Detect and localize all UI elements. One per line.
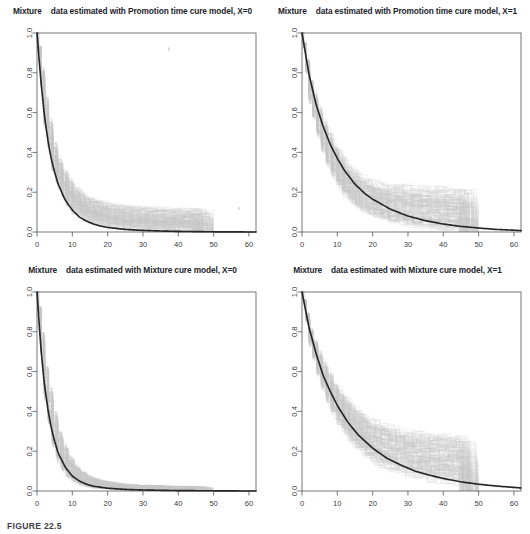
svg-text:0.6: 0.6 (290, 366, 299, 377)
figure-panel-grid: Mixturedata estimated with Promotion tim… (0, 0, 530, 518)
svg-text:10: 10 (68, 499, 76, 508)
svg-text:0.8: 0.8 (290, 68, 299, 79)
svg-text:10: 10 (68, 240, 76, 249)
svg-text:20: 20 (368, 499, 376, 508)
plot-panel-promotion-x1: Mixturedata estimated with Promotion tim… (265, 0, 530, 259)
survival-plot-mixture-x0: 01020304050600.00.20.40.60.81.0 (0, 273, 265, 518)
svg-text:0.2: 0.2 (290, 187, 299, 198)
svg-text:20: 20 (103, 240, 111, 249)
svg-text:60: 60 (510, 499, 518, 508)
svg-text:50: 50 (209, 240, 217, 249)
svg-text:40: 40 (439, 499, 447, 508)
svg-text:0.2: 0.2 (290, 446, 299, 457)
svg-text:30: 30 (139, 499, 147, 508)
svg-text:0.0: 0.0 (25, 486, 34, 497)
svg-text:0.0: 0.0 (290, 486, 299, 497)
svg-text:0: 0 (300, 499, 304, 508)
svg-text:30: 30 (404, 499, 412, 508)
svg-text:0.8: 0.8 (25, 68, 34, 79)
svg-text:0: 0 (35, 499, 39, 508)
svg-text:0.8: 0.8 (290, 327, 299, 338)
plot-panel-promotion-x0: Mixturedata estimated with Promotion tim… (0, 0, 265, 259)
figure-caption: FIGURE 22.5 (7, 521, 62, 531)
svg-text:1.0: 1.0 (290, 28, 299, 39)
survival-plot-promotion-x0: 01020304050600.00.20.40.60.81.0 (0, 14, 265, 259)
svg-text:0.4: 0.4 (25, 406, 34, 417)
svg-text:0.6: 0.6 (25, 107, 34, 118)
svg-text:0.2: 0.2 (25, 446, 34, 457)
svg-text:0: 0 (300, 240, 304, 249)
svg-text:0.8: 0.8 (25, 327, 34, 338)
scan-speck (238, 207, 240, 210)
svg-text:10: 10 (333, 240, 341, 249)
svg-text:10: 10 (333, 499, 341, 508)
svg-text:1.0: 1.0 (25, 287, 34, 298)
scan-speck (168, 47, 170, 51)
svg-text:0.6: 0.6 (25, 366, 34, 377)
svg-text:30: 30 (139, 240, 147, 249)
plot-panel-mixture-x0: Mixturedata estimated with Mixture cure … (0, 259, 265, 518)
svg-text:0.6: 0.6 (290, 107, 299, 118)
survival-plot-promotion-x1: 01020304050600.00.20.40.60.81.0 (265, 14, 530, 259)
svg-text:20: 20 (368, 240, 376, 249)
svg-text:60: 60 (510, 240, 518, 249)
svg-text:20: 20 (103, 499, 111, 508)
svg-text:40: 40 (439, 240, 447, 249)
svg-text:60: 60 (245, 499, 253, 508)
svg-text:0.2: 0.2 (25, 187, 34, 198)
svg-text:30: 30 (404, 240, 412, 249)
svg-text:40: 40 (174, 499, 182, 508)
svg-text:1.0: 1.0 (290, 287, 299, 298)
svg-text:60: 60 (245, 240, 253, 249)
svg-text:0.4: 0.4 (25, 147, 34, 158)
svg-text:50: 50 (474, 499, 482, 508)
svg-text:0.0: 0.0 (290, 227, 299, 238)
svg-text:0.4: 0.4 (290, 147, 299, 158)
svg-text:0.4: 0.4 (290, 406, 299, 417)
survival-plot-mixture-x1: 01020304050600.00.20.40.60.81.0 (265, 273, 530, 518)
svg-text:1.0: 1.0 (25, 28, 34, 39)
svg-text:50: 50 (209, 499, 217, 508)
svg-text:0: 0 (35, 240, 39, 249)
svg-text:50: 50 (474, 240, 482, 249)
svg-text:40: 40 (174, 240, 182, 249)
svg-text:0.0: 0.0 (25, 227, 34, 238)
plot-panel-mixture-x1: Mixturedata estimated with Mixture cure … (265, 259, 530, 518)
